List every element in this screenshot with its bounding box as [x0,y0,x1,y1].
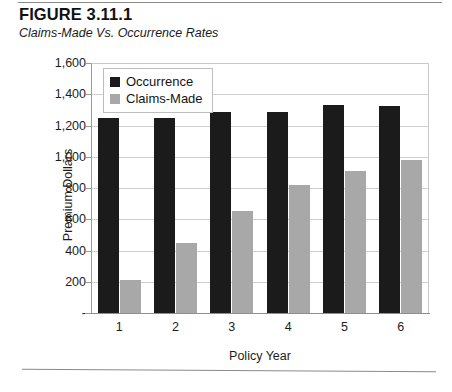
bar-claims-made-year-1 [120,280,141,313]
x-axis-tick-label: 6 [381,320,421,334]
legend-item: Claims-Made [110,90,203,107]
chart-legend: OccurrenceClaims-Made [103,68,213,113]
y-axis-tick-label: 1,600 [32,56,86,70]
y-axis-tick-label: 400 [32,244,86,258]
bar-claims-made-year-2 [176,243,197,313]
y-axis: Premium Dollars 1,6001,4001,2001,0008006… [24,0,86,392]
y-axis-tick-label: 1,200 [32,119,86,133]
y-axis-tick-label: 1,400 [32,87,86,101]
bar-claims-made-year-3 [232,211,253,313]
bar-group [323,63,366,313]
legend-item: Occurrence [110,73,203,90]
bar-occurrence-year-4 [267,112,288,313]
bar-occurrence-year-6 [379,106,400,313]
gray-square-icon [110,94,120,104]
bar-occurrence-year-1 [98,118,119,313]
x-axis-tick-label: 1 [99,320,139,334]
x-axis-tick-label: 3 [212,320,252,334]
bar-claims-made-year-5 [345,171,366,313]
bar-group [267,63,310,313]
bar-occurrence-year-3 [210,112,231,313]
bar-occurrence-year-5 [323,105,344,313]
x-axis-tick-label: 5 [325,320,365,334]
bar-occurrence-year-2 [154,118,175,313]
y-axis-tick-label: 200 [32,275,86,289]
bar-claims-made-year-4 [289,185,310,313]
black-square-icon [110,77,120,87]
bar-chart: Premium Dollars 1,6001,4001,2001,0008006… [0,0,452,392]
legend-item-label: Claims-Made [126,91,203,106]
bar-group [210,63,253,313]
legend-item-label: Occurrence [126,74,193,89]
bar-claims-made-year-6 [401,160,422,313]
x-axis-title: Policy Year [91,349,429,363]
x-axis-tick-label: 2 [156,320,196,334]
y-axis-tick-label: 600 [32,212,86,226]
bar-group [379,63,422,313]
x-axis-tick-label: 4 [268,320,308,334]
y-axis-tick-label: - [32,306,86,320]
y-axis-tick-label: 800 [32,181,86,195]
y-axis-tick-label: 1,000 [32,150,86,164]
x-axis-baseline [91,313,430,314]
